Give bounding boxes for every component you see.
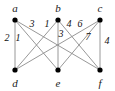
edge-weight-b-d: 1 [45, 19, 50, 29]
graph-vertex [12, 67, 17, 72]
edge-weight-a-e: 1 [16, 33, 21, 43]
vertex-label-e: e [56, 78, 61, 89]
vertex-label-a: a [12, 3, 18, 14]
vertex-label-b: b [55, 3, 61, 14]
edge-weight-a-f: 3 [30, 19, 35, 29]
vertex-label-c: c [98, 3, 103, 14]
edge-weight-a-d: 2 [5, 33, 10, 43]
edge-weight-b-e: 3 [59, 29, 64, 39]
edge-layer [15, 20, 100, 70]
bipartite-graph-figure: abcdef 213134674 [0, 0, 115, 91]
edge-weight-b-f: 4 [67, 19, 72, 29]
graph-vertex [97, 17, 102, 22]
graph-vertex [12, 17, 17, 22]
edge-weight-c-d: 6 [78, 19, 83, 29]
graph-vertex [55, 67, 60, 72]
graph-vertex [97, 67, 102, 72]
edge-weight-c-f: 4 [105, 36, 110, 46]
vertex-label-f: f [98, 78, 101, 89]
graph-vertex [55, 17, 60, 22]
vertex-label-d: d [12, 78, 18, 89]
edge-weight-c-e: 7 [86, 32, 91, 42]
